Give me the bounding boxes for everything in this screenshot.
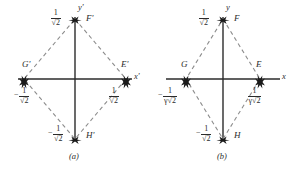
value-H-prime-sign: − <box>48 129 53 138</box>
value-G-den: γ√2 <box>163 96 177 105</box>
value-F-den: √2 <box>199 18 209 27</box>
vertex-label-F-prime: F' <box>86 14 93 23</box>
value-E-prime-den: √2 <box>109 96 119 105</box>
value-H-prime-num: 1 <box>55 125 61 133</box>
panel-caption-b: (b) <box>148 151 296 161</box>
value-E: 1 γ√2 <box>247 87 261 105</box>
value-G-num: 1 <box>167 87 173 95</box>
value-G-prime-den: √2 <box>19 96 29 105</box>
figure-panel-a: y' x' F' E' H' G' 1 √2 1 √2 − 1 √2 − 1 √… <box>0 0 148 170</box>
value-E-prime-num: 1 <box>111 87 117 95</box>
value-F-prime-num: 1 <box>53 9 59 17</box>
value-H: − 1 √2 <box>196 125 211 143</box>
value-G-prime-sign: − <box>14 91 19 100</box>
vertex-label-E-prime: E' <box>121 60 128 69</box>
value-H-prime: − 1 √2 <box>48 125 63 143</box>
vertex-label-H: H <box>234 131 241 140</box>
value-H-sign: − <box>196 129 201 138</box>
value-H-den: √2 <box>201 134 211 143</box>
x-axis-label-b: x <box>282 72 286 81</box>
vertex-label-H-prime: H' <box>86 131 94 140</box>
value-F-num: 1 <box>201 9 207 17</box>
figure-panel-b: y x F E H G 1 √2 1 γ√2 − 1 √2 − 1 γ√2 (b… <box>148 0 296 170</box>
vertex-label-F: F <box>234 14 240 23</box>
value-F-prime-den: √2 <box>51 18 61 27</box>
vertex-label-G: G <box>181 60 188 69</box>
value-G-prime-num: 1 <box>21 87 27 95</box>
value-E-num: 1 <box>251 87 257 95</box>
y-axis-label-a: y' <box>78 3 84 12</box>
vertex-label-E: E <box>256 60 262 69</box>
value-H-num: 1 <box>203 125 209 133</box>
marker-G <box>181 75 191 88</box>
panel-caption-a: (a) <box>0 151 148 161</box>
x-axis-label-a: x' <box>134 72 140 81</box>
value-H-prime-den: √2 <box>53 134 63 143</box>
value-F: 1 √2 <box>198 9 209 27</box>
panel-a-plot <box>0 0 148 170</box>
panel-b-plot <box>148 0 296 170</box>
value-F-prime: 1 √2 <box>50 9 61 27</box>
marker-E-prime <box>121 75 131 88</box>
value-E-prime: 1 √2 <box>108 87 119 105</box>
value-G-sign: − <box>158 91 163 100</box>
value-E-den: γ√2 <box>248 96 262 105</box>
y-axis-label-b: y <box>226 3 230 12</box>
value-G: − 1 γ√2 <box>158 87 177 105</box>
value-G-prime: − 1 √2 <box>14 87 29 105</box>
vertex-label-G-prime: G' <box>22 60 30 69</box>
